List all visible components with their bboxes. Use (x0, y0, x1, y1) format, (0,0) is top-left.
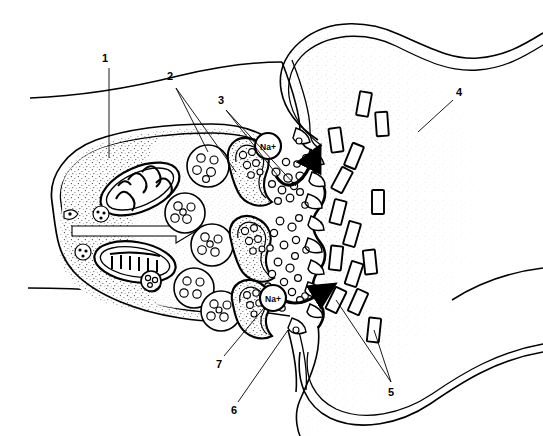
sodium-ion-lower: Na+ (260, 285, 286, 311)
synapse-diagram: Na+ Na+ 1 2 3 4 5 6 7 (0, 0, 543, 436)
callout-label-2: 2 (167, 70, 173, 82)
callout-label-1: 1 (102, 52, 108, 64)
figure-canvas: Na+ Na+ 1 2 3 4 5 6 7 (0, 0, 543, 436)
callout-label-5: 5 (388, 386, 394, 398)
callout-label-4: 4 (456, 86, 463, 98)
sodium-ion-lower-label: Na+ (265, 294, 281, 304)
callout-label-6: 6 (231, 404, 237, 416)
callout-label-7: 7 (216, 358, 222, 370)
callout-label-3: 3 (218, 94, 224, 106)
